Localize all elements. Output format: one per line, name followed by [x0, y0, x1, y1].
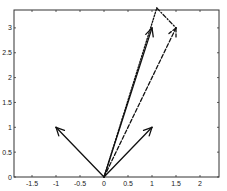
y-tick-label: 1 — [8, 124, 12, 131]
x-tick-label: 1.5 — [171, 180, 181, 187]
x-tick-label: -1.5 — [26, 180, 38, 187]
dashed-vector-arrow — [104, 28, 176, 177]
vectors — [56, 8, 176, 177]
y-tick-label: 0.5 — [2, 149, 12, 156]
dash-dot-line-line — [157, 8, 176, 28]
x-tick-label: -1 — [53, 180, 59, 187]
vector-a-arrow — [56, 127, 104, 177]
x-tick-label: 2 — [198, 180, 202, 187]
y-tick-label: 3 — [8, 24, 12, 31]
vector-b-arrow — [104, 127, 152, 177]
x-tick-label: 0.5 — [123, 180, 133, 187]
tick-labels: -1.5-1-0.500.511.5200.511.522.53 — [2, 24, 202, 187]
dotted-line-line — [104, 8, 157, 177]
x-tick-label: 0 — [102, 180, 106, 187]
vector-plot: -1.5-1-0.500.511.5200.511.522.53 — [0, 0, 227, 191]
y-tick-label: 0 — [8, 174, 12, 181]
y-tick-label: 2 — [8, 74, 12, 81]
y-tick-label: 2.5 — [2, 49, 12, 56]
x-tick-label: 1 — [150, 180, 154, 187]
x-tick-label: -0.5 — [74, 180, 86, 187]
y-tick-label: 1.5 — [2, 99, 12, 106]
